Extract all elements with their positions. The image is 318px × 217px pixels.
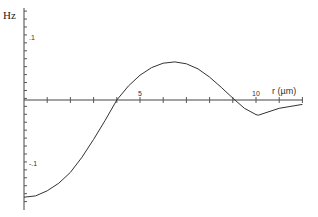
x-tick-label-5: 5 [138,90,142,97]
y-axis-label: Hz [3,9,16,21]
x-axis [24,97,303,103]
y-tick-label-neg-0.1: -.1 [29,160,37,167]
x-axis-label: r (µm) [272,86,296,96]
x-tick-label-10: 10 [252,90,260,97]
chart: Hz r (µm) 5 10 .1 -.1 [0,0,318,217]
y-axis [24,8,27,210]
hz-curve [24,62,302,197]
y-tick-label-0.1: .1 [29,34,35,41]
